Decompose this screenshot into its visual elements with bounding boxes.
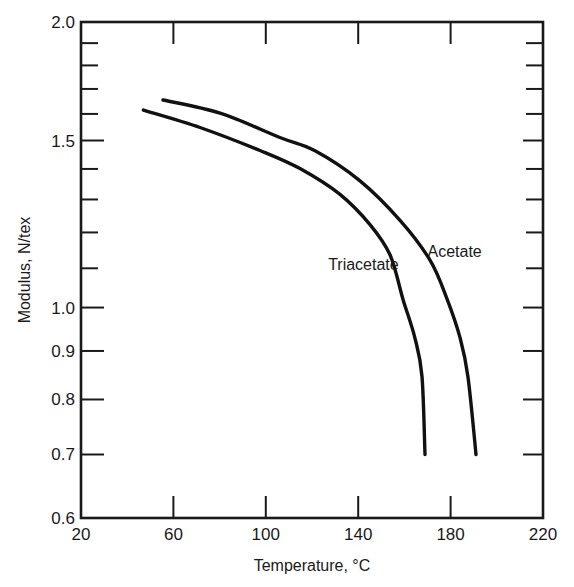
y-tick-label: 2.0	[51, 13, 75, 32]
y-tick-label: 0.7	[51, 445, 75, 464]
y-tick-label: 0.8	[51, 390, 75, 409]
x-tick-label: 60	[164, 525, 183, 544]
y-tick-label: 1.0	[51, 299, 75, 318]
chart: 20601001401802200.60.70.80.91.01.52.0 Tr…	[0, 0, 574, 587]
y-tick-label: 0.9	[51, 342, 75, 361]
series-triacetate-label: Triacetate	[328, 256, 399, 273]
series-triacetate-line	[143, 110, 425, 454]
series-acetate-line	[163, 100, 476, 455]
x-tick-label: 220	[529, 525, 557, 544]
x-axis-title: Temperature, °C	[254, 557, 371, 574]
tick-labels: 20601001401802200.60.70.80.91.01.52.0	[51, 13, 557, 544]
x-tick-label: 180	[436, 525, 464, 544]
y-tick-label: 1.5	[51, 132, 75, 151]
x-tick-label: 140	[344, 525, 372, 544]
curves	[143, 100, 476, 455]
y-tick-label: 0.6	[51, 509, 75, 528]
series-acetate-label: Acetate	[428, 243, 482, 260]
x-tick-label: 100	[252, 525, 280, 544]
y-axis-title: Modulus, N/tex	[16, 217, 33, 324]
series-labels: TriacetateAcetate	[328, 243, 482, 273]
